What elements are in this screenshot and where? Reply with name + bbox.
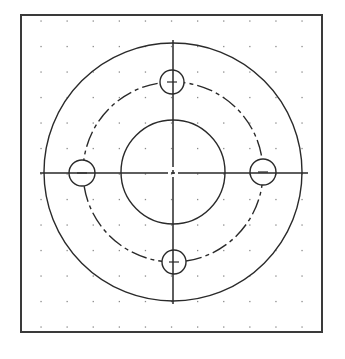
- grid-dot: [301, 199, 302, 200]
- grid-dot: [197, 97, 198, 98]
- grid-dot: [119, 275, 120, 276]
- grid-dot: [223, 275, 224, 276]
- grid-dot: [197, 250, 198, 251]
- grid-dot: [249, 97, 250, 98]
- grid-dot: [301, 250, 302, 251]
- grid-dot: [223, 199, 224, 200]
- grid-dot: [197, 199, 198, 200]
- grid-dot: [197, 122, 198, 123]
- grid-dot: [93, 326, 94, 327]
- grid-dot: [249, 250, 250, 251]
- grid-dot: [197, 275, 198, 276]
- grid-dot: [119, 148, 120, 149]
- grid-dot: [67, 224, 68, 225]
- grid-dot: [119, 301, 120, 302]
- grid-dot: [223, 20, 224, 21]
- grid-dot: [301, 97, 302, 98]
- grid-dot: [67, 301, 68, 302]
- grid-dot: [223, 71, 224, 72]
- grid-dot: [223, 301, 224, 302]
- grid-dot: [93, 301, 94, 302]
- grid-dot: [145, 148, 146, 149]
- grid-dot: [67, 71, 68, 72]
- grid-dot: [40, 71, 41, 72]
- grid-dot: [249, 20, 250, 21]
- grid-dot: [67, 122, 68, 123]
- grid-dot: [197, 20, 198, 21]
- grid-dot: [93, 97, 94, 98]
- grid-dot: [171, 275, 172, 276]
- grid-dot: [301, 148, 302, 149]
- grid-dot: [275, 199, 276, 200]
- grid-dot: [67, 250, 68, 251]
- grid-dot: [223, 46, 224, 47]
- grid-dot: [119, 224, 120, 225]
- grid-dot: [171, 46, 172, 47]
- grid-dot: [40, 20, 41, 21]
- grid-dot: [275, 148, 276, 149]
- grid-dot: [93, 122, 94, 123]
- grid-dot: [249, 148, 250, 149]
- grid-dot: [301, 326, 302, 327]
- grid-dot: [249, 326, 250, 327]
- grid-dot: [67, 20, 68, 21]
- grid-dot: [93, 199, 94, 200]
- grid-dot: [145, 301, 146, 302]
- grid-dot: [249, 224, 250, 225]
- grid-dot: [275, 46, 276, 47]
- grid-dot: [171, 122, 172, 123]
- grid-dot: [93, 148, 94, 149]
- grid-dot: [67, 326, 68, 327]
- grid-dot: [197, 326, 198, 327]
- grid-dot: [40, 122, 41, 123]
- drawing-canvas[interactable]: [0, 0, 345, 359]
- grid-dot: [145, 20, 146, 21]
- grid-dot: [301, 46, 302, 47]
- grid-dot: [40, 148, 41, 149]
- grid-dot: [275, 224, 276, 225]
- grid-dot: [93, 20, 94, 21]
- grid-dot: [223, 250, 224, 251]
- grid-dot: [67, 46, 68, 47]
- grid-dot: [40, 224, 41, 225]
- grid-dot: [40, 199, 41, 200]
- grid-dot: [93, 224, 94, 225]
- grid-dot: [145, 71, 146, 72]
- grid-dot: [93, 250, 94, 251]
- grid-dot: [40, 97, 41, 98]
- grid-dot: [197, 301, 198, 302]
- grid-dot: [249, 199, 250, 200]
- grid-dot: [145, 250, 146, 251]
- grid-dot: [145, 326, 146, 327]
- grid-dot: [145, 97, 146, 98]
- grid-dot: [223, 224, 224, 225]
- grid-dot: [301, 275, 302, 276]
- grid-dot: [223, 326, 224, 327]
- grid-dot: [119, 250, 120, 251]
- grid-dot: [145, 199, 146, 200]
- grid-dot: [119, 97, 120, 98]
- grid-dot: [119, 122, 120, 123]
- grid-dot: [197, 148, 198, 149]
- grid-dot: [275, 97, 276, 98]
- grid-dot: [275, 20, 276, 21]
- grid-dot: [145, 275, 146, 276]
- grid-dot: [275, 122, 276, 123]
- grid-dot: [93, 275, 94, 276]
- grid-dot: [40, 275, 41, 276]
- grid-dot: [40, 326, 41, 327]
- grid-dot: [301, 122, 302, 123]
- grid-dot: [197, 224, 198, 225]
- grid-dot: [171, 20, 172, 21]
- grid-dot: [145, 224, 146, 225]
- grid-dot: [275, 301, 276, 302]
- grid-dot: [171, 199, 172, 200]
- grid-dot: [301, 71, 302, 72]
- grid-dot: [171, 326, 172, 327]
- grid-dot: [249, 46, 250, 47]
- grid-dot: [249, 71, 250, 72]
- grid-dot: [119, 71, 120, 72]
- grid-dot: [223, 148, 224, 149]
- grid-dot: [119, 326, 120, 327]
- grid-dot: [171, 148, 172, 149]
